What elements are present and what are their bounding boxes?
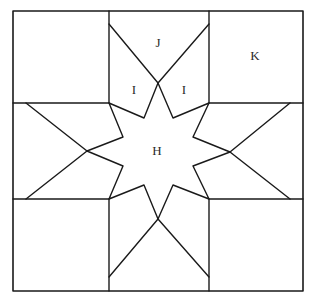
arm-top-left (109, 24, 158, 83)
quilt-block-diagram: J I I K H (0, 0, 318, 301)
arm-right-top (230, 103, 290, 152)
label-h: H (152, 143, 161, 158)
label-j: J (155, 35, 160, 50)
arm-right-bottom (230, 152, 290, 199)
arm-bottom-left (109, 219, 158, 277)
arm-bottom-right (158, 219, 209, 277)
label-i-right: I (182, 82, 186, 97)
arm-left-bottom (26, 151, 87, 199)
label-k: K (250, 48, 260, 63)
label-i-left: I (132, 82, 136, 97)
arm-left-top (26, 103, 87, 151)
arm-top-right (158, 24, 209, 83)
